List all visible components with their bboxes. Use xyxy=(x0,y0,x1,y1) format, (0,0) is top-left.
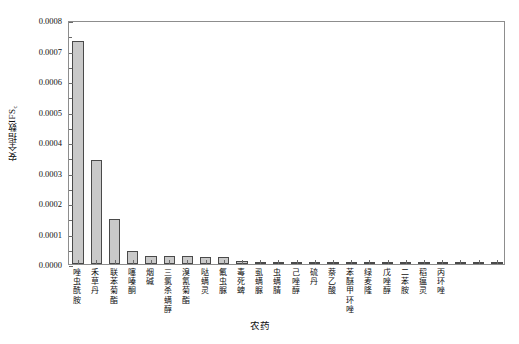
x-axis-tick xyxy=(115,260,116,264)
x-axis-tick xyxy=(133,260,134,264)
y-axis-tick xyxy=(69,205,73,206)
x-tick-label: 虱螨脲 xyxy=(254,268,265,296)
y-axis-minor-tick xyxy=(69,37,72,38)
x-tick-label: 烟碱 xyxy=(144,268,155,286)
x-tick-label: 萘乙酸 xyxy=(327,268,338,296)
y-axis-title-subscript: c xyxy=(10,105,17,108)
x-axis-tick xyxy=(497,260,498,264)
y-axis-minor-tick xyxy=(69,220,72,221)
x-axis-tick xyxy=(424,260,425,264)
x-axis-tick xyxy=(242,260,243,264)
bar-series xyxy=(69,22,504,264)
x-axis-tick xyxy=(278,260,279,264)
chart-figure: 安全指数IFSc 0.00000.00010.00020.00030.00040… xyxy=(0,0,519,344)
y-axis-tick xyxy=(69,236,73,237)
x-tick-label: 哒螨灵 xyxy=(199,268,210,296)
bar xyxy=(91,160,102,264)
x-axis-tick xyxy=(460,260,461,264)
x-tick-label: 戊唑醇 xyxy=(381,268,392,296)
y-axis-tick xyxy=(69,144,73,145)
x-axis-tick xyxy=(315,260,316,264)
bar xyxy=(72,41,83,264)
y-tick-label: 0.0005 xyxy=(39,108,62,118)
y-axis-minor-tick xyxy=(69,251,72,252)
x-tick-label: 联苯菊酯 xyxy=(108,268,119,305)
x-axis-tick xyxy=(224,260,225,264)
x-axis-tick xyxy=(78,260,79,264)
x-tick-label: 禾草丹 xyxy=(90,268,101,296)
y-axis-tick xyxy=(69,175,73,176)
y-axis-minor-tick xyxy=(69,129,72,130)
y-axis-minor-tick xyxy=(69,190,72,191)
x-axis-tick xyxy=(351,260,352,264)
y-tick-label: 0.0002 xyxy=(39,199,62,209)
x-tick-label: 三氯杀螨醇 xyxy=(163,268,174,314)
y-axis-minor-tick xyxy=(69,68,72,69)
x-tick-label: 唑虫酰胺 xyxy=(72,268,83,305)
x-tick-label: 溴氰菊酯 xyxy=(181,268,192,305)
x-axis-tick xyxy=(406,260,407,264)
y-tick-label: 0.0006 xyxy=(39,77,62,87)
x-tick-label: 稻瘟灵 xyxy=(418,268,429,296)
y-axis-tick xyxy=(69,22,73,23)
y-tick-label: 0.0004 xyxy=(39,138,62,148)
y-axis-tick xyxy=(69,114,73,115)
y-tick-label: 0.0000 xyxy=(39,260,62,270)
y-axis-minor-tick xyxy=(69,98,72,99)
y-tick-label: 0.0007 xyxy=(39,47,62,57)
y-axis-title-text: 安全指数IFSc xyxy=(5,105,18,161)
y-axis-tick-labels: 0.00000.00010.00020.00030.00040.00050.00… xyxy=(18,0,64,344)
x-axis-title: 农药 xyxy=(0,318,519,332)
x-tick-label: 丙环唑 xyxy=(436,268,447,296)
x-tick-label: 二苯胺 xyxy=(399,268,410,296)
x-axis-tick xyxy=(187,260,188,264)
x-axis-tick xyxy=(260,260,261,264)
x-tick-label: 虫螨腈 xyxy=(272,268,283,296)
x-tick-label: 毒死蜱 xyxy=(235,268,246,296)
x-axis-tick xyxy=(206,260,207,264)
x-axis-tick xyxy=(96,260,97,264)
x-axis-tick xyxy=(297,260,298,264)
x-axis-tick xyxy=(169,260,170,264)
x-tick-label: 硫丹 xyxy=(308,268,319,286)
x-axis-tick xyxy=(333,260,334,264)
x-tick-label: 己唑醇 xyxy=(290,268,301,296)
y-tick-label: 0.0003 xyxy=(39,169,62,179)
x-axis-tick xyxy=(151,260,152,264)
y-axis-minor-tick xyxy=(69,159,72,160)
y-axis-tick xyxy=(69,266,73,267)
y-tick-label: 0.0001 xyxy=(39,230,62,240)
x-tick-label: 噻嗪酮 xyxy=(126,268,137,296)
x-tick-label: 氟虫脲 xyxy=(217,268,228,296)
x-axis-tick xyxy=(388,260,389,264)
plot-area xyxy=(68,21,505,265)
x-axis-tick xyxy=(479,260,480,264)
x-tick-label: 绿麦隆 xyxy=(363,268,374,296)
y-axis-tick xyxy=(69,83,73,84)
x-tick-label: 苯醚甲环唑 xyxy=(345,268,356,314)
y-axis-tick xyxy=(69,53,73,54)
bar xyxy=(109,219,120,264)
x-axis-tick xyxy=(369,260,370,264)
x-axis-tick xyxy=(442,260,443,264)
y-tick-label: 0.0008 xyxy=(39,16,62,26)
